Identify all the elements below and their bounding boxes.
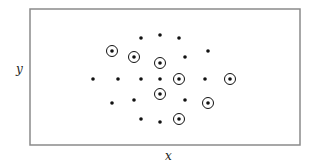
- data-point: [177, 117, 181, 121]
- data-point: [203, 77, 207, 81]
- scatter-plot: [0, 0, 313, 165]
- data-point: [177, 36, 181, 40]
- data-point: [116, 77, 120, 81]
- x-axis-label: x: [165, 149, 172, 163]
- data-point: [110, 101, 114, 105]
- data-point: [206, 49, 210, 53]
- data-points: [91, 33, 235, 124]
- data-point: [132, 55, 136, 59]
- y-axis-label: y: [16, 62, 23, 76]
- data-point: [183, 98, 187, 102]
- data-point: [177, 77, 181, 81]
- data-point: [158, 92, 162, 96]
- data-point: [206, 101, 210, 105]
- data-point: [91, 77, 95, 81]
- data-point: [158, 33, 162, 37]
- data-point: [132, 98, 136, 102]
- data-point: [158, 120, 162, 124]
- data-point: [139, 77, 143, 81]
- data-point: [110, 49, 114, 53]
- data-point: [139, 117, 143, 121]
- data-point: [228, 77, 232, 81]
- data-point: [158, 61, 162, 65]
- data-point: [158, 77, 162, 81]
- data-point: [183, 55, 187, 59]
- data-point: [139, 36, 143, 40]
- plot-frame: [30, 9, 300, 145]
